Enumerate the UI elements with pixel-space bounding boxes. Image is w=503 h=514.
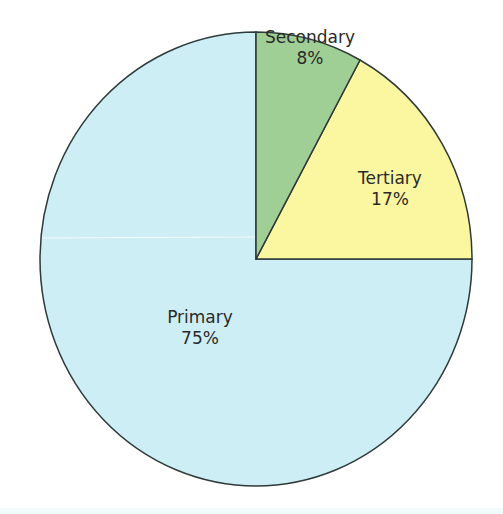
label-primary-pct: 75% [150, 328, 250, 349]
label-primary-name: Primary [150, 307, 250, 328]
label-tertiary-name: Tertiary [340, 168, 440, 189]
pie-chart [0, 0, 503, 514]
label-secondary: Secondary 8% [255, 27, 365, 69]
label-tertiary: Tertiary 17% [340, 168, 440, 210]
label-secondary-name: Secondary [255, 27, 365, 48]
label-tertiary-pct: 17% [340, 189, 440, 210]
bottom-strip [0, 508, 503, 514]
label-primary: Primary 75% [150, 307, 250, 349]
label-secondary-pct: 8% [255, 48, 365, 69]
